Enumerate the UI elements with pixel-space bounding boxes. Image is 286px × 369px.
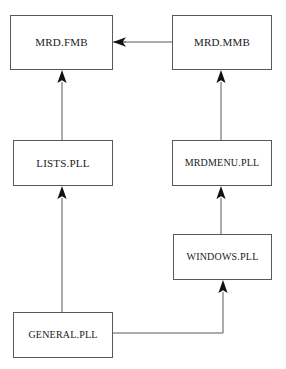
node-general-pll[interactable]: GENERAL.PLL [13,312,113,358]
edge-mrdmenu-to-mmb [216,70,225,140]
edge-lists-to-fmb [57,70,66,140]
node-lists-pll[interactable]: LISTS.PLL [13,140,113,186]
edge-general-to-windows [113,280,228,333]
edge-windows-to-mrdmenu [216,186,225,234]
node-mrd-mmb-label: MRD.MMB [194,37,250,48]
node-windows-pll[interactable]: WINDOWS.PLL [173,234,272,280]
node-general-pll-label: GENERAL.PLL [28,330,97,340]
node-lists-pll-label: LISTS.PLL [36,158,89,169]
node-mrd-mmb[interactable]: MRD.MMB [172,15,272,70]
node-mrd-fmb[interactable]: MRD.FMB [10,15,113,70]
edge-general-to-lists [57,186,66,312]
node-windows-pll-label: WINDOWS.PLL [187,252,259,262]
edge-mmb-to-fmb [113,37,172,47]
dependency-diagram: MRD.FMB MRD.MMB LISTS.PLL MRDMENU.PLL WI… [0,0,286,369]
node-mrdmenu-pll[interactable]: MRDMENU.PLL [172,140,272,186]
node-mrdmenu-pll-label: MRDMENU.PLL [185,158,260,168]
node-mrd-fmb-label: MRD.FMB [35,37,87,48]
